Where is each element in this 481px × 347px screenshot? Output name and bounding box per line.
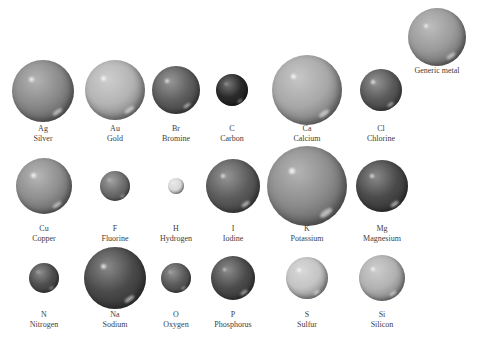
atom-sphere-gold-icon — [85, 60, 145, 120]
atom-symbol: Cl — [336, 124, 426, 134]
sphere-highlight — [370, 174, 374, 178]
atom-label-chlorine: ClChlorine — [336, 124, 426, 143]
sphere-highlight — [291, 74, 297, 80]
atom-label-generic-metal: Generic metal — [392, 66, 481, 76]
sphere-highlight — [371, 80, 374, 83]
sphere-rim-reflection — [124, 105, 135, 114]
atom-sphere-fluorine-icon — [100, 171, 130, 201]
atom-name: Generic metal — [392, 66, 481, 76]
atom-sphere-calcium-icon — [272, 55, 342, 125]
sphere-rim-reflection — [239, 289, 247, 296]
atom-symbol: Si — [337, 310, 427, 320]
sphere-highlight — [172, 182, 174, 184]
atom-sphere-magnesium-icon — [356, 160, 408, 212]
atom-name: Silicon — [337, 320, 427, 330]
sphere-highlight — [29, 77, 34, 82]
sphere-rim-reflection — [390, 199, 400, 207]
atom-sphere-potassium-icon — [267, 146, 347, 226]
sphere-highlight — [165, 79, 169, 83]
atom-sphere-generic-metal-icon — [408, 8, 466, 66]
sphere-rim-reflection — [119, 194, 125, 199]
sphere-rim-reflection — [319, 206, 334, 219]
sphere-rim-reflection — [241, 200, 251, 208]
sphere-rim-reflection — [48, 286, 54, 291]
sphere-rim-reflection — [180, 286, 186, 291]
atom-name: Magnesium — [337, 234, 427, 244]
sphere-highlight — [223, 268, 227, 272]
atom-sphere-chlorine-icon — [360, 69, 402, 111]
atom-sphere-iodine-icon — [206, 159, 260, 213]
atom-sphere-hydrogen-icon — [168, 178, 184, 194]
atom-sphere-bromine-icon — [152, 66, 200, 114]
sphere-rim-reflection — [445, 52, 456, 61]
atom-sphere-sulfur-icon — [286, 257, 328, 299]
sphere-highlight — [101, 76, 106, 81]
atom-sphere-silver-icon — [12, 60, 74, 122]
atom-sphere-carbon-icon — [216, 74, 248, 106]
sphere-highlight — [297, 268, 300, 271]
sphere-highlight — [31, 173, 35, 177]
sphere-highlight — [371, 267, 375, 271]
sphere-rim-reflection — [52, 107, 63, 117]
sphere-rim-reflection — [317, 108, 330, 119]
sphere-rim-reflection — [183, 102, 192, 110]
atom-model-figure: Generic metalAgSilverAuGoldBrBromineCCar… — [0, 0, 481, 347]
sphere-highlight — [169, 271, 171, 273]
sphere-highlight — [424, 24, 429, 29]
sphere-rim-reflection — [389, 290, 397, 297]
atom-sphere-sodium-icon — [84, 247, 146, 309]
sphere-highlight — [108, 179, 110, 181]
sphere-highlight — [221, 174, 225, 178]
atom-sphere-nitrogen-icon — [29, 263, 59, 293]
sphere-rim-reflection — [387, 101, 395, 108]
sphere-rim-reflection — [52, 200, 62, 209]
sphere-highlight — [225, 83, 228, 86]
sphere-highlight — [37, 271, 39, 273]
atom-sphere-phosphorus-icon — [211, 256, 255, 300]
atom-name: Chlorine — [336, 134, 426, 144]
sphere-rim-reflection — [313, 289, 321, 296]
sphere-rim-reflection — [237, 98, 243, 103]
atom-sphere-copper-icon — [16, 158, 72, 214]
atom-sphere-silicon-icon — [359, 255, 405, 301]
atom-symbol: Mg — [337, 224, 427, 234]
atom-label-magnesium: MgMagnesium — [337, 224, 427, 243]
sphere-rim-reflection — [124, 294, 135, 304]
sphere-highlight — [289, 168, 295, 174]
atom-label-silicon: SiSilicon — [337, 310, 427, 329]
atom-sphere-oxygen-icon — [161, 263, 191, 293]
sphere-highlight — [101, 264, 106, 269]
